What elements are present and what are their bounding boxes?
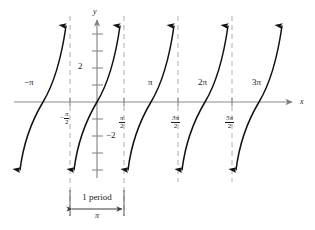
y-tick-label-2: 2 [78,62,83,71]
x-tick-label-neg-half-pi: − π 2 [60,107,69,126]
tangent-branch-pi [128,26,174,170]
three-half-pi-numerator: 3π [171,115,180,122]
x-tick-label-pi: π [148,78,153,87]
five-half-pi-denominator: 2 [225,122,234,130]
x-axis-label: x [300,98,304,106]
x-tick-label-2pi: 2π [198,78,207,87]
period-annotation-label: 1 period [72,193,122,202]
half-pi-numerator: π [119,115,125,122]
x-tick-label-half-pi: π 2 [119,107,125,131]
three-half-pi-denominator: 2 [171,122,180,130]
tangent-branch-2pi [182,26,228,170]
tangent-branch-3pi [236,26,282,170]
period-annotation-value: π [72,212,122,220]
y-tick-label-neg-2: −2 [106,131,116,140]
x-tick-label-3half-pi: 3π 2 [171,107,180,131]
asymptote-group [70,16,232,216]
neg-half-pi-denominator: 2 [64,118,70,126]
figure-canvas: x y 2 −2 −π π 2π 3π − π 2 π 2 3π 2 [0,0,315,230]
tangent-curve-group [20,26,282,170]
five-half-pi-numerator: 5π [225,115,234,122]
x-tick-label-5half-pi: 5π 2 [225,107,234,131]
neg-half-pi-numerator: π [64,111,70,118]
tangent-graph-svg [0,0,315,230]
x-tick-label-3pi: 3π [252,78,261,87]
x-tick-label-neg-pi: −π [24,78,34,87]
half-pi-denominator: 2 [119,122,125,130]
tangent-branch-neg-pi [20,26,66,170]
y-axis-label: y [93,8,97,16]
